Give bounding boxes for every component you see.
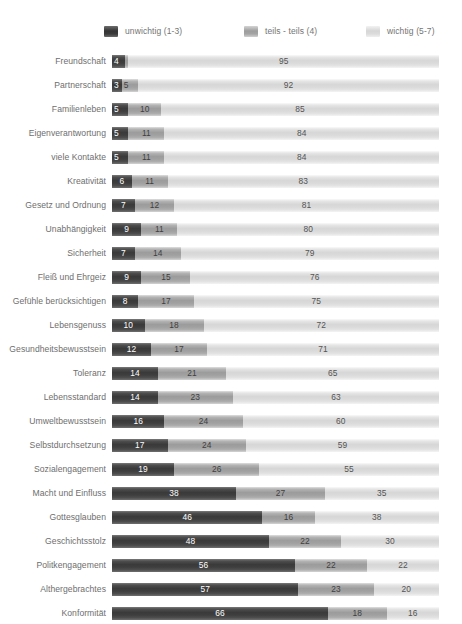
segment-wichtig: 92	[138, 79, 439, 92]
stacked-bar: 172459	[112, 439, 439, 452]
segment-value: 24	[202, 441, 212, 449]
segment-value: 14	[130, 369, 140, 377]
chart-row: Eigenverantwortung51184	[0, 121, 462, 145]
segment-unwichtig: 9	[112, 223, 141, 236]
segment-unwichtig: 16	[112, 415, 164, 428]
row-label: Gefühle berücksichtigen	[0, 296, 112, 306]
segment-unwichtig: 17	[112, 439, 168, 452]
segment-value: 10	[124, 321, 134, 329]
segment-unwichtig: 5	[112, 103, 128, 116]
chart-row: Althergebrachtes572320	[0, 577, 462, 601]
stacked-bar: 495	[112, 55, 439, 68]
chart-row: Gesetz und Ordnung71281	[0, 193, 462, 217]
stacked-bar: 661816	[112, 607, 439, 620]
segment-wichtig: 95	[128, 55, 439, 68]
segment-value: 80	[303, 225, 313, 233]
segment-teils-teils: 14	[135, 247, 181, 260]
stacked-bar: 382735	[112, 487, 439, 500]
row-label: Eigenverantwortung	[0, 128, 112, 138]
segment-value: 38	[169, 489, 179, 497]
segment-value: 46	[182, 513, 192, 521]
segment-teils-teils: 23	[298, 583, 373, 596]
segment-wichtig: 81	[174, 199, 439, 212]
chart-row: Lebensstandard142363	[0, 385, 462, 409]
segment-value: 7	[121, 201, 126, 209]
segment-teils-teils: 27	[236, 487, 324, 500]
row-label: Althergebrachtes	[0, 584, 112, 594]
chart-row: Toleranz142165	[0, 361, 462, 385]
chart-rows: Freundschaft495Partnerschaft3592Familien…	[0, 49, 462, 624]
segment-wichtig: 75	[194, 295, 439, 308]
segment-unwichtig: 7	[112, 247, 135, 260]
chart-row: Konformität661816	[0, 601, 462, 624]
row-label: Lebensstandard	[0, 392, 112, 402]
row-label: Partnerschaft	[0, 80, 112, 90]
legend-item-teils-teils: teils - teils (4)	[244, 26, 366, 37]
stacked-bar: 482230	[112, 535, 439, 548]
row-label: Macht und Einfluss	[0, 488, 112, 498]
segment-value: 5	[114, 105, 119, 113]
light-swatch-icon	[366, 26, 380, 37]
segment-value: 84	[297, 153, 307, 161]
segment-value: 23	[331, 585, 341, 593]
segment-value: 14	[130, 393, 140, 401]
segment-value: 5	[114, 129, 119, 137]
chart-row: Gesundheitsbewusstsein121771	[0, 337, 462, 361]
segment-unwichtig: 14	[112, 367, 158, 380]
segment-value: 95	[279, 57, 289, 65]
legend-item-unwichtig: unwichtig (1-3)	[104, 26, 244, 37]
segment-value: 11	[145, 177, 154, 185]
segment-wichtig: 16	[387, 607, 439, 620]
segment-wichtig: 84	[164, 127, 439, 140]
segment-value: 6	[119, 177, 124, 185]
segment-value: 85	[295, 105, 305, 113]
segment-value: 16	[284, 513, 294, 521]
chart-row: Politkengagement562222	[0, 553, 462, 577]
segment-value: 75	[312, 297, 322, 305]
segment-unwichtig: 38	[112, 487, 236, 500]
segment-unwichtig: 12	[112, 343, 151, 356]
segment-unwichtig: 19	[112, 463, 174, 476]
segment-value: 76	[310, 273, 320, 281]
chart-row: Sozialengagement192655	[0, 457, 462, 481]
segment-value: 83	[299, 177, 309, 185]
chart-row: Familienleben51085	[0, 97, 462, 121]
segment-value: 20	[402, 585, 412, 593]
segment-value: 11	[155, 225, 164, 233]
legend-item-wichtig: wichtig (5-7)	[366, 26, 454, 37]
stacked-bar: 51184	[112, 127, 439, 140]
dark-swatch-icon	[104, 26, 118, 37]
row-label: Freundschaft	[0, 56, 112, 66]
segment-teils-teils: 15	[141, 271, 190, 284]
segment-unwichtig: 14	[112, 391, 158, 404]
mid-swatch-icon	[244, 26, 258, 37]
row-label: Unabhängigkeit	[0, 224, 112, 234]
stacked-bar: 51085	[112, 103, 439, 116]
stacked-bar: 61183	[112, 175, 439, 188]
segment-teils-teils: 18	[145, 319, 204, 332]
chart-row: Geschichtsstolz482230	[0, 529, 462, 553]
segment-value: 11	[142, 153, 151, 161]
segment-value: 38	[372, 513, 382, 521]
segment-teils-teils: 23	[158, 391, 233, 404]
segment-value: 19	[138, 465, 148, 473]
segment-value: 81	[302, 201, 312, 209]
row-label: Fleiß und Ehrgeiz	[0, 272, 112, 282]
segment-teils-teils: 5	[122, 79, 138, 92]
stacked-bar: 142363	[112, 391, 439, 404]
row-label: Toleranz	[0, 368, 112, 378]
segment-value: 27	[276, 489, 286, 497]
row-label: Geschichtsstolz	[0, 536, 112, 546]
segment-unwichtig: 3	[112, 79, 122, 92]
segment-teils-teils: 11	[128, 151, 164, 164]
segment-unwichtig: 8	[112, 295, 138, 308]
segment-unwichtig: 6	[112, 175, 132, 188]
chart-row: Gefühle berücksichtigen81775	[0, 289, 462, 313]
segment-value: 3	[114, 81, 119, 89]
segment-value: 65	[328, 369, 338, 377]
stacked-bar: 51184	[112, 151, 439, 164]
segment-value: 92	[284, 81, 294, 89]
segment-value: 5	[124, 81, 129, 89]
segment-value: 63	[331, 393, 341, 401]
segment-teils-teils: 17	[138, 295, 194, 308]
